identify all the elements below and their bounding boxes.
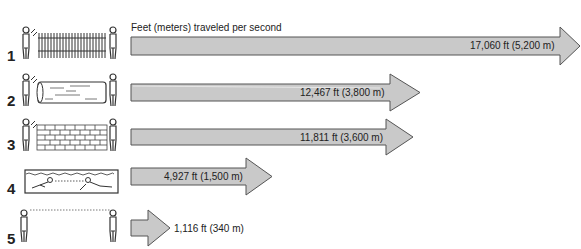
value-label: 12,467 ft (3,800 m)	[300, 87, 385, 98]
row-3-illustration	[23, 119, 116, 151]
listener-icon	[110, 210, 116, 242]
log-icon	[37, 82, 106, 103]
row-2-illustration	[23, 74, 116, 106]
row-number: 4	[7, 180, 15, 197]
row-number: 5	[7, 230, 15, 247]
row-number: 1	[7, 47, 15, 64]
listener-icon	[21, 210, 27, 242]
listener-icon	[23, 27, 29, 59]
row-number: 2	[7, 92, 15, 109]
listener-icon	[110, 119, 116, 151]
row-4-illustration	[25, 170, 118, 193]
value-label: 17,060 ft (5,200 m)	[470, 40, 555, 51]
listener-icon	[110, 27, 116, 59]
listener-icon	[23, 119, 29, 151]
arrow-row-5	[131, 210, 170, 246]
row-1-illustration	[23, 27, 116, 59]
diagram-canvas	[0, 0, 581, 249]
row-number: 3	[7, 136, 15, 153]
row-5-illustration	[21, 210, 116, 242]
listener-icon	[23, 74, 29, 106]
brick-wall-icon	[37, 125, 107, 150]
fence-icon	[38, 33, 106, 58]
value-label: 4,927 ft (1,500 m)	[164, 171, 243, 182]
value-label: 1,116 ft (340 m)	[174, 223, 244, 234]
listener-icon	[110, 74, 116, 106]
chart-title: Feet (meters) traveled per second	[131, 22, 282, 33]
value-label: 11,811 ft (3,600 m)	[300, 132, 383, 143]
